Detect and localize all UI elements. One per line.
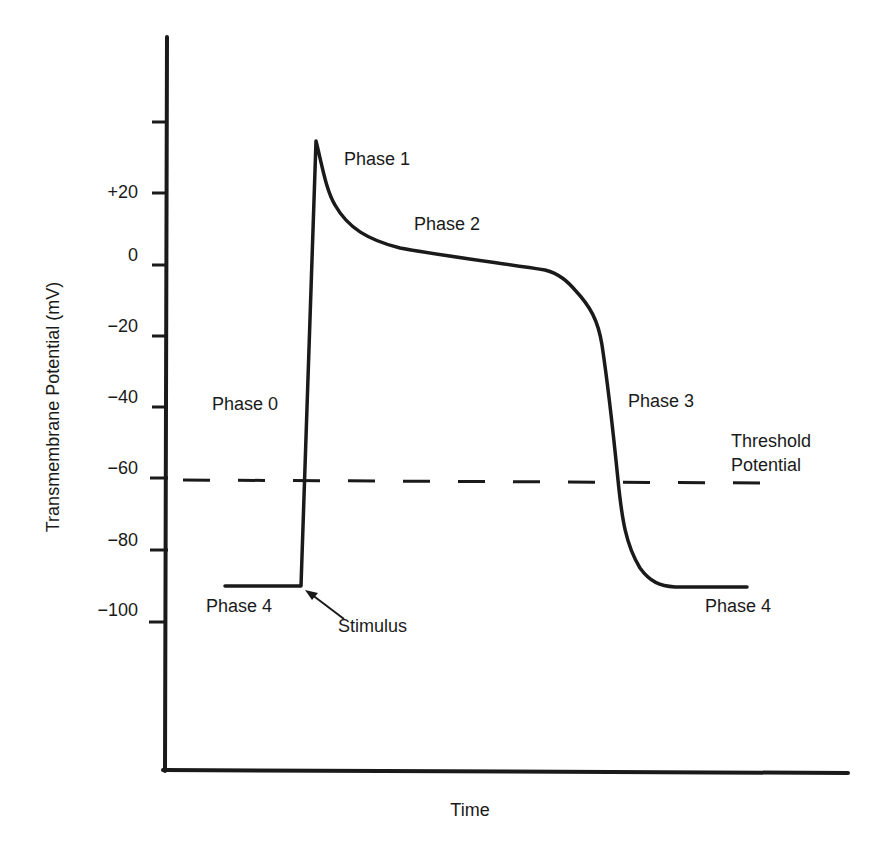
tick-label-minus60: −60	[58, 458, 138, 478]
x-axis-title: Time	[450, 800, 489, 821]
phase-4-left-label: Phase 4	[206, 596, 272, 616]
chart-canvas	[0, 0, 880, 847]
phase-0-label: Phase 0	[212, 394, 278, 414]
tick-label-minus80: −80	[58, 530, 138, 550]
x-axis-line	[163, 770, 848, 773]
phase-1-label: Phase 1	[344, 149, 410, 169]
threshold-label-line1: Threshold	[731, 429, 811, 453]
tick-label-minus100: −100	[58, 600, 138, 620]
tick-label-plus20: +20	[58, 182, 138, 202]
phase-2-label: Phase 2	[414, 214, 480, 234]
y-axis-line	[165, 37, 167, 771]
threshold-dashed-line	[183, 480, 760, 483]
tick-label-minus20: −20	[58, 316, 138, 336]
threshold-potential-label: Threshold Potential	[731, 429, 811, 477]
action-potential-curve	[225, 141, 747, 587]
stimulus-label: Stimulus	[338, 616, 407, 636]
action-potential-figure: +20 0 −20 −40 −60 −80 −100 Transmembrane…	[0, 0, 880, 847]
stimulus-arrow	[305, 590, 344, 619]
tick-label-zero: 0	[58, 245, 138, 265]
phase-3-label: Phase 3	[628, 391, 694, 411]
phase-4-right-label: Phase 4	[705, 596, 771, 616]
threshold-label-line2: Potential	[731, 453, 811, 477]
tick-label-minus40: −40	[58, 387, 138, 407]
y-axis-title: Transmembrane Potential (mV)	[43, 282, 64, 532]
